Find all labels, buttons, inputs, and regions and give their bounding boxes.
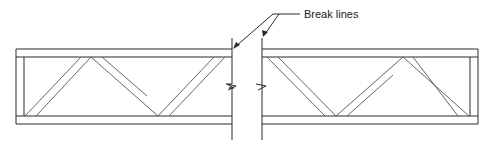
web-members-left [25, 57, 225, 116]
break-line-right [256, 38, 266, 140]
web-members-right [267, 57, 469, 116]
callout-label: Break lines [304, 8, 359, 20]
callout-leader [233, 14, 300, 49]
truss-right-segment [262, 49, 478, 124]
truss-diagram: Break lines [0, 0, 489, 149]
break-line-left [226, 38, 236, 140]
truss-left-segment [16, 49, 232, 124]
